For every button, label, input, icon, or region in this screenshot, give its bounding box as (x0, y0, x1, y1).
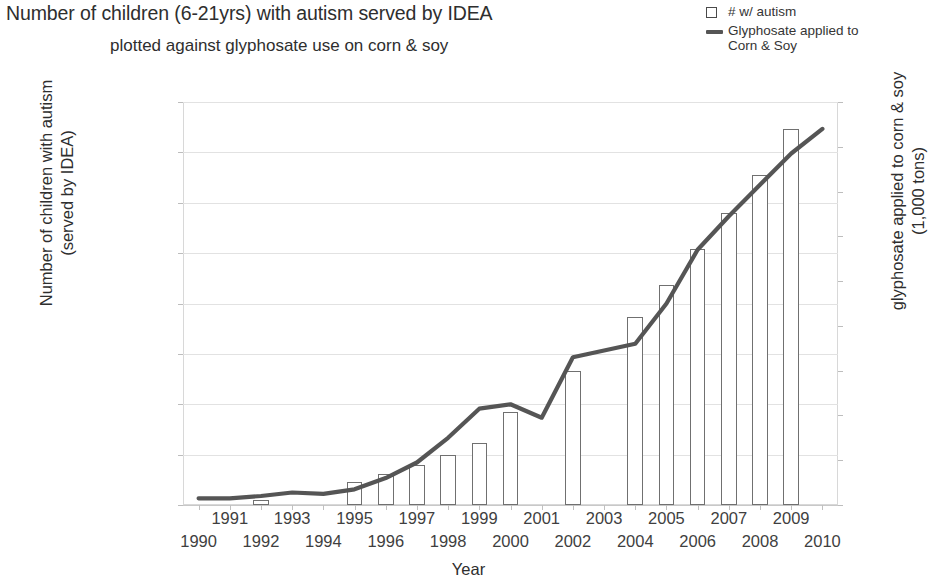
y-axis-right-tick-mark (838, 505, 843, 506)
bar-2005 (659, 285, 675, 505)
x-axis-tick-mark (386, 505, 387, 510)
y-axis-left-tick-mark (178, 354, 183, 355)
bar-1999 (472, 443, 488, 505)
y-axis-right-tick-mark (838, 281, 843, 282)
x-axis-label-2005: 2005 (639, 509, 693, 528)
y-axis-left-tick-mark (178, 203, 183, 204)
chart-title-line-1: Number of children (6-21yrs) with autism… (6, 2, 493, 25)
y-axis-right-tick-mark (838, 102, 843, 103)
x-axis-tick-mark (573, 505, 574, 510)
y-axis-left-tick-mark (178, 102, 183, 103)
x-axis-tick-mark (760, 505, 761, 510)
line-marker-icon (706, 23, 728, 34)
gridline (183, 102, 838, 103)
x-axis-label-1994: 1994 (296, 532, 350, 551)
x-axis-label-1998: 1998 (421, 532, 475, 551)
bar-1996 (378, 474, 394, 505)
x-axis-label-2006: 2006 (671, 532, 725, 551)
y-axis-left-title: Number of children with autism(served by… (36, 48, 78, 338)
bar-1997 (409, 465, 425, 505)
gridline (183, 253, 838, 254)
y-axis-right-tick-mark (838, 326, 843, 327)
x-axis-label-2000: 2000 (484, 532, 538, 551)
bar-2000 (503, 412, 519, 505)
chart-title-line-2: plotted against glyphosate use on corn &… (110, 36, 448, 56)
x-axis-label-1996: 1996 (359, 532, 413, 551)
x-axis-tick-mark (261, 505, 262, 510)
x-axis-tick-mark (822, 505, 823, 510)
y-axis-left-tick-mark (178, 253, 183, 254)
y-axis-right-tick-mark (838, 371, 843, 372)
gridline (183, 404, 838, 405)
x-axis-label-2002: 2002 (546, 532, 600, 551)
x-axis-tick-mark (448, 505, 449, 510)
x-axis-label-1992: 1992 (234, 532, 288, 551)
bar-1995 (347, 482, 363, 505)
y-axis-left-tick-mark (178, 404, 183, 405)
plot-area: 0500001000001500002000002500003000003500… (183, 102, 838, 505)
bar-1998 (440, 455, 456, 505)
chart-page: Number of children (6-21yrs) with autism… (0, 0, 937, 587)
x-axis-title: Year (0, 560, 937, 579)
bar-2007 (721, 213, 737, 505)
gridline (183, 354, 838, 355)
legend-item-autism[interactable]: # w/ autism (706, 4, 932, 20)
gridline (183, 152, 838, 153)
x-axis-label-2003: 2003 (577, 509, 631, 528)
y-axis-left-tick-mark (178, 152, 183, 153)
y-axis-left-tick-mark (178, 505, 183, 506)
legend-item-glyphosate-label: Glyphosate applied toCorn & Soy (728, 23, 859, 54)
open-square-icon (706, 4, 728, 18)
x-axis-label-1993: 1993 (265, 509, 319, 528)
bar-2002 (565, 371, 581, 505)
x-axis-label-1990: 1990 (172, 532, 226, 551)
legend-item-autism-label: # w/ autism (728, 4, 796, 20)
x-axis-label-1995: 1995 (328, 509, 382, 528)
x-axis-tick-mark (698, 505, 699, 510)
x-axis-tick-mark (323, 505, 324, 510)
x-axis-label-2009: 2009 (764, 509, 818, 528)
y-axis-left-tick-mark (178, 455, 183, 456)
y-axis-right-tick-mark (838, 460, 843, 461)
y-axis-right-tick-mark (838, 415, 843, 416)
gridline (183, 203, 838, 204)
bar-2008 (752, 175, 768, 505)
y-axis-right-tick-mark (838, 147, 843, 148)
x-axis-label-1991: 1991 (203, 509, 257, 528)
gridline (183, 304, 838, 305)
x-axis-label-1999: 1999 (452, 509, 506, 528)
bar-2004 (627, 317, 643, 505)
bar-2006 (690, 249, 706, 505)
x-axis-tick-mark (199, 505, 200, 510)
x-axis-label-2007: 2007 (702, 509, 756, 528)
x-axis-label-2001: 2001 (515, 509, 569, 528)
x-axis-label-2004: 2004 (608, 532, 662, 551)
bar-2009 (783, 129, 799, 505)
y-axis-right-tick-mark (838, 236, 843, 237)
x-axis-tick-mark (635, 505, 636, 510)
x-axis-tick-mark (511, 505, 512, 510)
y-axis-right-title: glyphosate applied to corn & soy(1,000 t… (887, 46, 929, 336)
x-axis-label-2010: 2010 (795, 532, 849, 551)
y-axis-left-tick-mark (178, 304, 183, 305)
y-axis-right-tick-mark (838, 192, 843, 193)
x-axis-label-1997: 1997 (390, 509, 444, 528)
x-axis-label-2008: 2008 (733, 532, 787, 551)
